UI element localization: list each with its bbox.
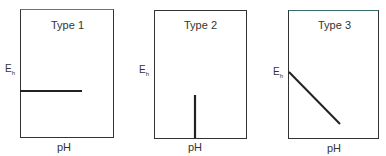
diagonal-line: [0, 0, 386, 156]
